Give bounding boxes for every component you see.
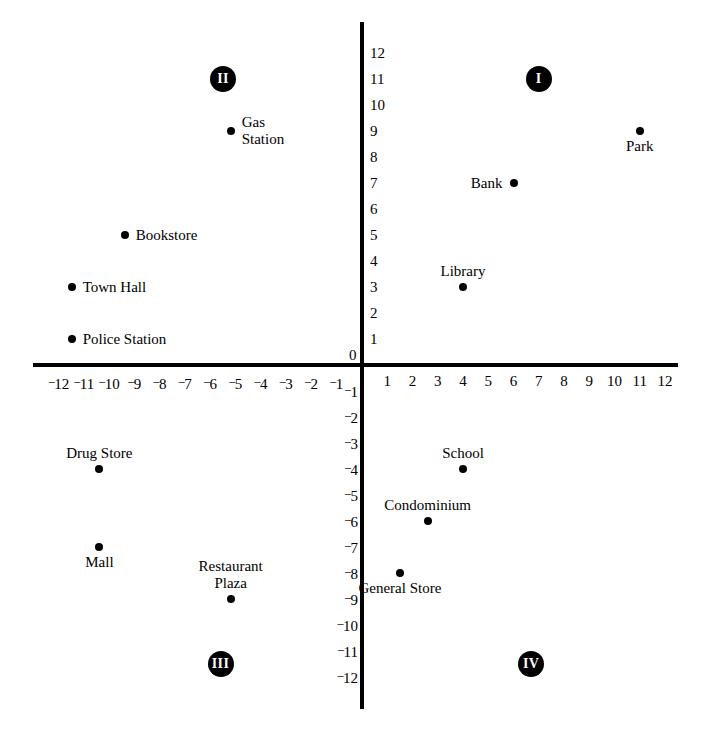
y-tick-12: 12	[370, 46, 385, 61]
data-point-bookstore[interactable]	[121, 231, 129, 239]
data-point-town-hall[interactable]	[68, 283, 76, 291]
x-tick--12: –12	[49, 374, 70, 392]
y-tick--9: –9	[345, 590, 358, 608]
x-tick--4: –4	[255, 374, 268, 392]
y-tick--10: –10	[338, 616, 359, 634]
x-tick-6: 6	[510, 374, 518, 389]
x-tick-9: 9	[586, 374, 594, 389]
origin-label: 0	[349, 348, 357, 363]
y-tick--12: –12	[338, 668, 359, 686]
x-axis-line	[33, 363, 678, 367]
y-axis-line	[360, 22, 364, 709]
x-tick-4: 4	[459, 374, 467, 389]
point-label-mall: Mall	[85, 554, 113, 571]
y-tick-1: 1	[370, 332, 378, 347]
data-point-school[interactable]	[459, 465, 467, 473]
point-label-library: Library	[441, 263, 486, 280]
x-tick--2: –2	[305, 374, 318, 392]
x-tick--8: –8	[154, 374, 167, 392]
x-tick-1: 1	[384, 374, 392, 389]
point-label-general-store: General Store	[358, 580, 441, 597]
y-tick-6: 6	[370, 202, 378, 217]
x-tick--5: –5	[229, 374, 242, 392]
data-point-bank[interactable]	[510, 179, 518, 187]
data-point-condominium[interactable]	[424, 517, 432, 525]
data-point-police-station[interactable]	[68, 335, 76, 343]
x-tick--9: –9	[128, 374, 141, 392]
data-point-general-store[interactable]	[396, 569, 404, 577]
quadrant-badge-III: III	[208, 651, 234, 677]
x-tick--3: –3	[280, 374, 293, 392]
y-tick--1: –1	[345, 382, 358, 400]
x-tick--6: –6	[204, 374, 217, 392]
x-tick-5: 5	[485, 374, 493, 389]
y-tick-9: 9	[370, 124, 378, 139]
y-tick-7: 7	[370, 176, 378, 191]
y-tick-2: 2	[370, 306, 378, 321]
y-tick-10: 10	[370, 98, 385, 113]
x-tick-12: 12	[658, 374, 673, 389]
y-tick--8: –8	[345, 564, 358, 582]
data-point-drug-store[interactable]	[95, 465, 103, 473]
data-point-gas-station[interactable]	[227, 127, 235, 135]
quadrant-badge-I: I	[526, 66, 552, 92]
y-tick--6: –6	[345, 512, 358, 530]
y-tick--7: –7	[345, 538, 358, 556]
point-label-park: Park	[626, 138, 654, 155]
quadrant-badge-II: II	[210, 66, 236, 92]
y-tick-4: 4	[370, 254, 378, 269]
x-tick-2: 2	[409, 374, 417, 389]
point-label-bank: Bank	[471, 175, 503, 192]
y-tick-11: 11	[370, 72, 384, 87]
x-tick-11: 11	[633, 374, 647, 389]
y-tick--2: –2	[345, 408, 358, 426]
y-tick-5: 5	[370, 228, 378, 243]
y-tick--11: –11	[338, 642, 358, 660]
y-tick--3: –3	[345, 434, 358, 452]
point-label-condominium: Condominium	[384, 497, 471, 514]
x-tick--11: –11	[74, 374, 94, 392]
x-tick-8: 8	[560, 374, 568, 389]
point-label-school: School	[442, 445, 484, 462]
y-tick-3: 3	[370, 280, 378, 295]
point-label-bookstore: Bookstore	[136, 227, 198, 244]
data-point-park[interactable]	[636, 127, 644, 135]
point-label-gas-station: Gas Station	[242, 114, 285, 148]
point-label-drug-store: Drug Store	[66, 445, 132, 462]
point-label-police-station: Police Station	[83, 331, 167, 348]
x-tick-3: 3	[434, 374, 442, 389]
x-tick-10: 10	[607, 374, 622, 389]
y-tick--4: –4	[345, 460, 358, 478]
data-point-restaurant-plaza[interactable]	[227, 595, 235, 603]
coordinate-plane: 0–12–11–10–9–8–7–6–5–4–3–2–1123456789101…	[0, 0, 711, 738]
data-point-library[interactable]	[459, 283, 467, 291]
point-label-restaurant-plaza: Restaurant Plaza	[199, 558, 263, 592]
quadrant-badge-IV: IV	[518, 651, 544, 677]
y-tick--5: –5	[345, 486, 358, 504]
x-tick--10: –10	[99, 374, 120, 392]
point-label-town-hall: Town Hall	[83, 279, 147, 296]
x-tick-7: 7	[535, 374, 543, 389]
data-point-mall[interactable]	[95, 543, 103, 551]
x-tick--7: –7	[179, 374, 192, 392]
y-tick-8: 8	[370, 150, 378, 165]
x-tick--1: –1	[330, 374, 343, 392]
